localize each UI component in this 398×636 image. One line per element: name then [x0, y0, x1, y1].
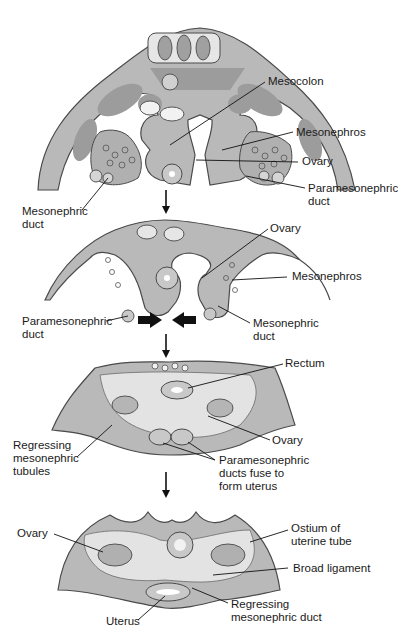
label-paramesonephric-duct-2: Paramesonephric duct — [22, 315, 112, 341]
label-paramesonephric-duct-1: Paramesonephric duct — [308, 182, 398, 208]
label-mesonephric-duct-1: Mesonephric duct — [22, 205, 88, 231]
down-arrow-icon — [162, 190, 170, 214]
label-ovary-2: Ovary — [270, 222, 301, 235]
left-arrow-icon — [172, 312, 196, 328]
label-regressing-duct: Regressing mesonephric duct — [231, 598, 322, 624]
label-ducts-fuse: Paramesonephric ducts fuse to form uteru… — [219, 454, 309, 493]
label-ovary-3: Ovary — [272, 434, 303, 447]
stage-3-cross-section — [52, 361, 295, 455]
label-ostium: Ostium of uterine tube — [291, 522, 352, 548]
label-mesonephros-2: Mesonephros — [292, 270, 362, 283]
figure-title-cut-off — [100, 0, 330, 4]
stage-4-cross-section — [58, 512, 280, 608]
label-ovary-1: Ovary — [302, 155, 333, 168]
label-mesonephric-duct-2: Mesonephric duct — [253, 317, 319, 343]
down-arrow-icon — [162, 334, 170, 358]
label-mesocolon: Mesocolon — [268, 75, 324, 88]
label-broad-ligament: Broad ligament — [293, 562, 370, 575]
label-uterus: Uterus — [106, 615, 140, 628]
down-arrow-icon — [162, 472, 170, 498]
label-rectum: Rectum — [285, 357, 325, 370]
label-regressing-tubules: Regressing mesonephric tubules — [13, 439, 79, 478]
stage-2-cross-section — [45, 220, 330, 322]
label-mesonephros-1: Mesonephros — [296, 126, 366, 139]
label-ovary-4: Ovary — [17, 527, 48, 540]
